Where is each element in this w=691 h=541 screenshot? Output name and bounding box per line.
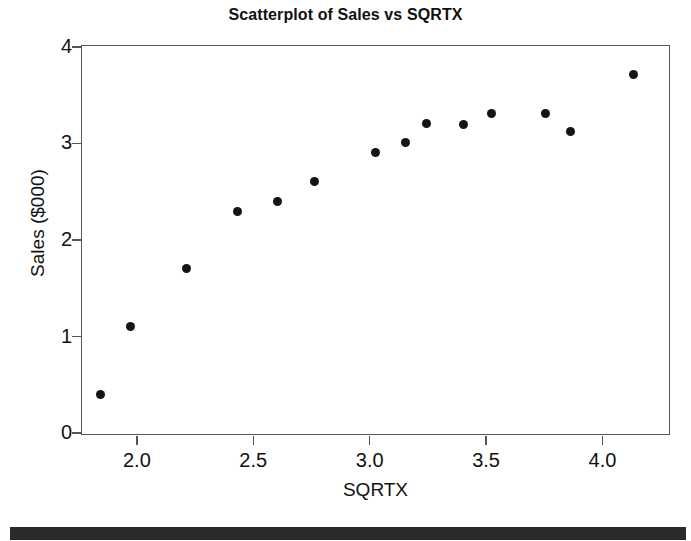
data-point xyxy=(566,127,575,136)
data-point xyxy=(459,120,468,129)
data-point xyxy=(371,148,380,157)
y-tick-label: 1 xyxy=(12,326,72,346)
x-tick-mark xyxy=(369,436,371,445)
data-point xyxy=(487,109,496,118)
data-point xyxy=(233,207,242,216)
data-point xyxy=(422,119,431,128)
x-tick-label: 2.5 xyxy=(213,450,293,470)
x-tick-mark xyxy=(602,436,604,445)
x-axis-label: SQRTX xyxy=(81,479,670,501)
footer-bar xyxy=(10,527,686,540)
y-tick-mark xyxy=(72,432,81,434)
data-point xyxy=(401,138,410,147)
data-point xyxy=(126,322,135,331)
data-point xyxy=(182,264,191,273)
y-tick-label: 0 xyxy=(12,422,72,442)
scatterplot-figure: Scatterplot of Sales vs SQRTX Sales ($00… xyxy=(0,0,691,541)
x-tick-mark xyxy=(253,436,255,445)
y-tick-mark xyxy=(72,143,81,145)
y-tick-label: 2 xyxy=(12,229,72,249)
data-point xyxy=(629,70,638,79)
y-tick-mark xyxy=(72,336,81,338)
y-tick-label: 3 xyxy=(12,132,72,152)
x-tick-label: 4.0 xyxy=(562,450,642,470)
x-tick-label: 3.5 xyxy=(446,450,526,470)
data-point xyxy=(541,109,550,118)
y-tick-mark xyxy=(72,239,81,241)
data-point xyxy=(96,390,105,399)
y-tick-label: 4 xyxy=(12,36,72,56)
chart-title: Scatterplot of Sales vs SQRTX xyxy=(0,6,691,24)
x-tick-mark xyxy=(485,436,487,445)
x-tick-mark xyxy=(136,436,138,445)
data-point xyxy=(273,197,282,206)
x-tick-label: 3.0 xyxy=(330,450,410,470)
x-tick-label: 2.0 xyxy=(97,450,177,470)
data-point xyxy=(310,177,319,186)
y-tick-mark xyxy=(72,46,81,48)
plot-area xyxy=(81,45,670,435)
